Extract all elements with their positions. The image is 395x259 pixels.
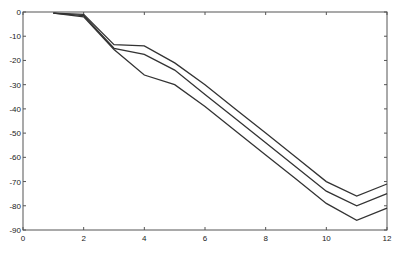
x-tick-label: 10	[322, 234, 331, 243]
y-tick-label: -80	[9, 202, 21, 211]
x-tick-label: 8	[263, 234, 268, 243]
y-tick-label: -20	[9, 56, 21, 65]
data-series	[53, 13, 387, 220]
x-tick-label: 0	[21, 234, 26, 243]
x-tick-label: 12	[383, 234, 392, 243]
axes-box	[23, 12, 387, 230]
series-line-lower	[53, 13, 387, 220]
y-tick-label: -40	[9, 105, 21, 114]
y-tick-label: -70	[9, 178, 21, 187]
y-tick-label: -30	[9, 81, 21, 90]
x-tick-label: 4	[142, 234, 147, 243]
y-axis: 0-10-20-30-40-50-60-70-80-90	[9, 8, 387, 235]
plot-frame	[23, 12, 387, 230]
line-chart: 024681012 0-10-20-30-40-50-60-70-80-90	[0, 0, 395, 259]
y-tick-label: -60	[9, 153, 21, 162]
y-tick-label: -90	[9, 226, 21, 235]
y-tick-label: -10	[9, 32, 21, 41]
y-tick-label: 0	[17, 8, 22, 17]
y-tick-label: -50	[9, 129, 21, 138]
series-line-upper	[53, 13, 387, 196]
series-line-middle	[53, 13, 387, 206]
x-tick-label: 6	[203, 234, 208, 243]
x-tick-label: 2	[81, 234, 86, 243]
